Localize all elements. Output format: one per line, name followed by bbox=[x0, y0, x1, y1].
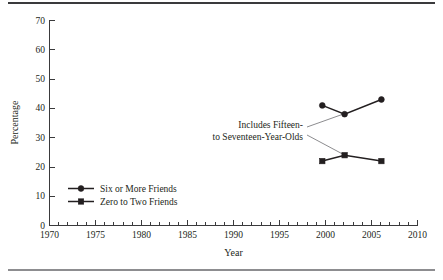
x-tick-label: 2010 bbox=[408, 230, 427, 240]
x-tick-label: 2005 bbox=[362, 230, 381, 240]
legend-item-six-or-more-friends[interactable]: Six or More Friends bbox=[68, 184, 177, 194]
data-point bbox=[379, 158, 384, 163]
x-tick-label: 1970 bbox=[40, 230, 59, 240]
legend-square-marker-icon bbox=[78, 199, 83, 204]
data-point bbox=[379, 97, 385, 103]
legend-label: Zero to Two Friends bbox=[100, 197, 178, 207]
y-axis-tick-labels: 70 60 50 40 30 20 10 0 bbox=[36, 16, 46, 231]
data-point bbox=[342, 153, 347, 158]
legend-label: Six or More Friends bbox=[100, 184, 177, 194]
legend-circle-marker-icon bbox=[78, 186, 84, 192]
x-axis-title: Year bbox=[224, 247, 243, 258]
series-six-or-more-friends bbox=[319, 97, 384, 118]
y-tick-label: 50 bbox=[36, 74, 46, 84]
x-axis-tick-labels: 1970 1975 1980 1985 1990 1995 2000 2005 … bbox=[40, 230, 427, 240]
y-axis: 70 60 50 40 30 20 10 0 bbox=[36, 16, 55, 231]
y-axis-ticks bbox=[50, 21, 55, 226]
x-tick-label: 1990 bbox=[224, 230, 243, 240]
x-axis: 1970 1975 1980 1985 1990 1995 2000 2005 … bbox=[40, 220, 427, 241]
y-tick-label: 70 bbox=[36, 16, 46, 26]
legend-item-zero-to-two-friends[interactable]: Zero to Two Friends bbox=[68, 197, 178, 207]
y-axis-title: Percentage bbox=[9, 100, 20, 144]
data-point bbox=[319, 103, 325, 109]
chart-figure: 70 60 50 40 30 20 10 0 bbox=[0, 0, 443, 280]
x-tick-label: 1975 bbox=[86, 230, 105, 240]
age-range-annotation: Includes Fifteen- to Seventeen-Year-Olds bbox=[213, 120, 304, 142]
data-point bbox=[342, 111, 348, 117]
data-point bbox=[320, 158, 325, 163]
line-chart: 70 60 50 40 30 20 10 0 bbox=[0, 0, 443, 280]
series-zero-to-two-friends bbox=[320, 153, 385, 164]
x-tick-label: 2000 bbox=[316, 230, 335, 240]
x-tick-label: 1995 bbox=[270, 230, 289, 240]
annotation-line-1: Includes Fifteen- bbox=[238, 120, 303, 130]
y-tick-label: 10 bbox=[36, 191, 46, 201]
x-tick-label: 1980 bbox=[132, 230, 151, 240]
y-tick-label: 60 bbox=[36, 45, 46, 55]
annotation-line-2: to Seventeen-Year-Olds bbox=[213, 132, 304, 142]
y-tick-label: 30 bbox=[36, 133, 46, 143]
y-tick-label: 20 bbox=[36, 162, 46, 172]
x-tick-label: 1985 bbox=[178, 230, 197, 240]
chart-legend: Six or More Friends Zero to Two Friends bbox=[68, 184, 178, 207]
annotation-leader-lines bbox=[307, 114, 345, 156]
y-tick-label: 40 bbox=[36, 103, 46, 113]
